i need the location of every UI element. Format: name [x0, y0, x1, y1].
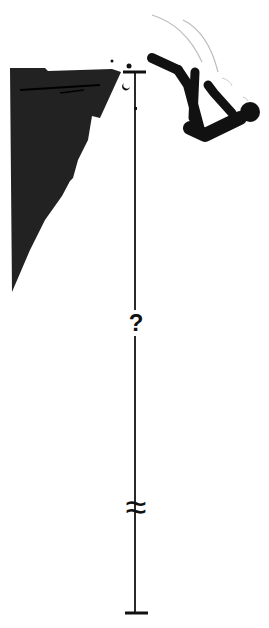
cliff-shape [10, 68, 121, 292]
motion-line [183, 20, 218, 72]
debris-icon [127, 64, 132, 69]
debris-icon [111, 60, 114, 63]
motion-line [222, 78, 232, 86]
height-unknown-label: ? [124, 310, 148, 336]
break-symbol: ≈ [118, 488, 154, 526]
falling-person-icon [152, 58, 260, 135]
debris-icon [122, 83, 130, 90]
motion-line [152, 15, 202, 62]
motion-line [243, 97, 248, 101]
